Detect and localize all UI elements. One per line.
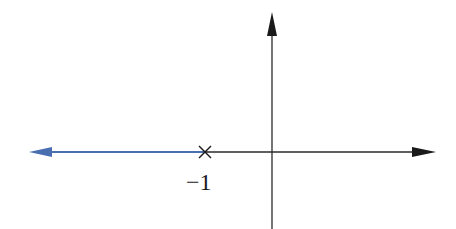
locus-arrow-icon	[29, 147, 52, 157]
imaginary-axis-arrow-icon	[267, 12, 277, 36]
real-axis-arrow-icon	[412, 147, 436, 157]
pole-label: −1	[186, 170, 212, 194]
root-locus-diagram	[0, 0, 456, 229]
